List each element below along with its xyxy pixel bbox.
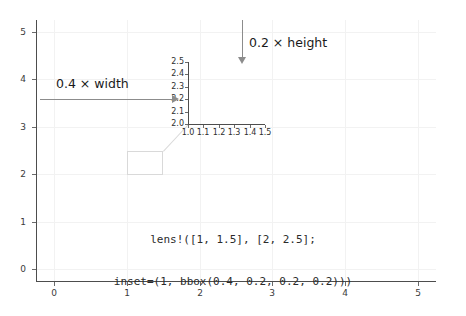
inset-y-axis-tick xyxy=(185,87,188,88)
inset-y-axis-tick-label: 2.4 xyxy=(160,70,184,78)
width-annotation-label: 0.4 × width xyxy=(56,76,129,91)
y-axis-tick xyxy=(32,32,36,33)
width-arrow-head-icon xyxy=(172,95,179,103)
gridline-horizontal xyxy=(37,32,436,33)
height-annotation-label: 0.2 × height xyxy=(249,35,327,50)
inset-y-axis-tick xyxy=(185,112,188,113)
inset-y-axis-tick-label: 2.5 xyxy=(160,58,184,66)
width-arrow-shaft xyxy=(40,99,174,100)
y-axis-tick-label: 3 xyxy=(6,123,26,132)
code-annotation-line-1: lens!([1, 1.5], [2, 2.5]; xyxy=(0,233,466,247)
code-annotation: lens!([1, 1.5], [2, 2.5]; inset=(1, bbox… xyxy=(0,205,466,316)
inset-y-axis-tick-label: 2.0 xyxy=(160,120,184,128)
y-axis-tick xyxy=(32,174,36,175)
inset-y-axis-tick-label: 2.3 xyxy=(160,83,184,91)
inset-y-axis-spine xyxy=(188,62,189,124)
gridline-horizontal xyxy=(37,174,436,175)
y-axis-tick-label: 5 xyxy=(6,28,26,37)
y-axis-tick-label: 2 xyxy=(6,170,26,179)
code-annotation-line-2: inset=(1, bbox(0.4, 0.2, 0.2, 0.2))) xyxy=(0,275,466,289)
inset-y-axis-tick xyxy=(185,99,188,100)
chart-canvas: 012345 012345 2.52.42.32.22.12.0 1.01.11… xyxy=(0,0,466,316)
y-axis-tick-label: 4 xyxy=(6,75,26,84)
inset-y-axis-tick-label: 2.1 xyxy=(160,108,184,116)
inset-x-axis-tick-label: 1.5 xyxy=(255,129,275,137)
inset-y-axis-tick xyxy=(185,62,188,63)
height-arrow-shaft xyxy=(242,20,243,58)
y-axis-tick xyxy=(32,79,36,80)
inset-y-axis-tick xyxy=(185,74,188,75)
lens-source-rectangle xyxy=(127,151,163,175)
height-arrow-head-icon xyxy=(238,57,246,64)
y-axis-tick xyxy=(32,127,36,128)
inset-x-axis-spine xyxy=(188,124,265,125)
